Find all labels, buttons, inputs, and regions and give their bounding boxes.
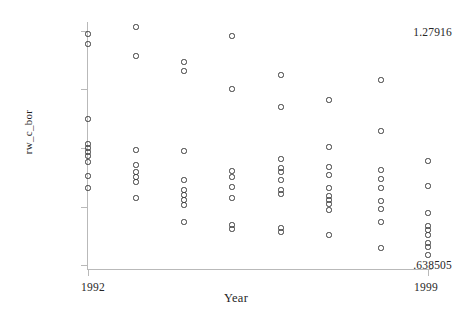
data-point bbox=[326, 164, 331, 169]
data-point bbox=[133, 195, 138, 200]
data-point bbox=[229, 195, 234, 200]
data-point bbox=[326, 232, 331, 237]
data-point bbox=[133, 53, 138, 58]
data-points-layer bbox=[0, 0, 455, 321]
data-point bbox=[229, 226, 234, 231]
data-point bbox=[425, 244, 430, 249]
data-point bbox=[378, 128, 383, 133]
data-point bbox=[326, 185, 331, 190]
data-point bbox=[378, 176, 383, 181]
data-point bbox=[181, 59, 186, 64]
data-point bbox=[85, 153, 90, 158]
data-point bbox=[133, 162, 138, 167]
data-point bbox=[425, 252, 430, 257]
data-point bbox=[85, 159, 90, 164]
data-point bbox=[229, 168, 234, 173]
data-point bbox=[133, 147, 138, 152]
data-point bbox=[425, 158, 430, 163]
data-point bbox=[229, 184, 234, 189]
data-point bbox=[425, 210, 430, 215]
data-point bbox=[378, 167, 383, 172]
data-point bbox=[278, 229, 283, 234]
data-point bbox=[181, 219, 186, 224]
data-point bbox=[133, 24, 138, 29]
data-point bbox=[378, 219, 383, 224]
data-point bbox=[181, 148, 186, 153]
data-point bbox=[326, 144, 331, 149]
data-point bbox=[378, 206, 383, 211]
data-point bbox=[181, 202, 186, 207]
data-point bbox=[229, 174, 234, 179]
data-point bbox=[85, 116, 90, 121]
data-point bbox=[326, 97, 331, 102]
data-point bbox=[326, 207, 331, 212]
data-point bbox=[326, 172, 331, 177]
data-point bbox=[133, 179, 138, 184]
data-point bbox=[278, 191, 283, 196]
data-point bbox=[326, 201, 331, 206]
scatter-plot-figure: 1.27916 .638505 1992 1999 rw_c_bor Year bbox=[0, 0, 455, 321]
data-point bbox=[229, 33, 234, 38]
data-point bbox=[278, 156, 283, 161]
data-point bbox=[278, 72, 283, 77]
data-point bbox=[85, 31, 90, 36]
data-point bbox=[181, 177, 186, 182]
data-point bbox=[378, 245, 383, 250]
data-point bbox=[278, 104, 283, 109]
data-point bbox=[85, 41, 90, 46]
data-point bbox=[229, 86, 234, 91]
data-point bbox=[378, 198, 383, 203]
data-point bbox=[181, 68, 186, 73]
data-point bbox=[85, 185, 90, 190]
data-point bbox=[425, 183, 430, 188]
data-point bbox=[278, 177, 283, 182]
data-point bbox=[278, 169, 283, 174]
data-point bbox=[85, 173, 90, 178]
data-point bbox=[378, 77, 383, 82]
data-point bbox=[378, 185, 383, 190]
data-point bbox=[425, 232, 430, 237]
